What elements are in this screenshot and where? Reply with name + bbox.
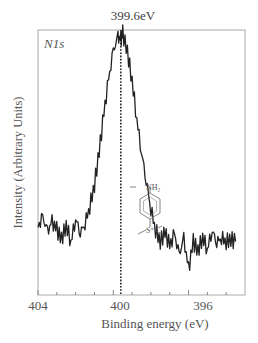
x-tick-label: 400 (100, 298, 140, 314)
panel-label: N1s (44, 36, 64, 52)
x-axis-ticks (38, 290, 226, 295)
sulfur-label: S⁺ (146, 226, 154, 235)
x-axis-label: Binding energy (eV) (80, 316, 230, 332)
x-tick-label: 396 (183, 298, 223, 314)
plot-frame (38, 30, 245, 295)
spectrum-line (38, 25, 236, 270)
nh2-label: NH₂ (146, 183, 161, 192)
x-tick-label: 404 (18, 298, 58, 314)
y-axis-label: Intensity (Arbitrary Units) (11, 63, 26, 263)
peak-annotation: 399.6eV (103, 8, 163, 24)
xps-spectrum-chart: NH₂ S⁺ (0, 0, 258, 343)
